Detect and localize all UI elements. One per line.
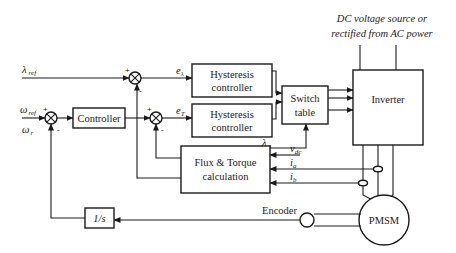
dtc-block-diagram: DC voltage source or rectified from AC p… bbox=[0, 0, 456, 253]
ib-label: ib bbox=[290, 171, 297, 184]
encoder-label: Encoder bbox=[262, 205, 297, 216]
dc-source-label-line2: rectified from AC power bbox=[331, 28, 433, 39]
flux-estimate-feedback-lower bbox=[137, 118, 181, 178]
sum-flux-plus: + bbox=[125, 66, 130, 75]
current-sensor-a bbox=[374, 166, 383, 172]
omega-r-label: ωr bbox=[22, 124, 33, 137]
sum-torque-plus: + bbox=[147, 105, 152, 114]
hyst2-to-switch bbox=[272, 102, 282, 119]
vdc-label: vdc bbox=[290, 143, 302, 156]
hysteresis-1-label-2: controller bbox=[212, 82, 253, 93]
flux-torque-calculation-block bbox=[181, 146, 270, 193]
sum-flux-minus: - bbox=[139, 86, 142, 95]
inverter-block bbox=[353, 70, 423, 145]
pmsm-label: PMSM bbox=[369, 215, 400, 226]
sum-torque-minus: - bbox=[161, 125, 164, 134]
inverter-label: Inverter bbox=[371, 94, 405, 105]
torque-estimate-feedback bbox=[156, 124, 181, 158]
speed-feedback bbox=[51, 124, 85, 218]
sum-speed-minus: - bbox=[57, 125, 60, 134]
hyst1-to-switch bbox=[272, 71, 282, 93]
switch-table-label-1: Switch bbox=[290, 93, 320, 104]
controller-label: Controller bbox=[77, 113, 121, 124]
hysteresis-2-label-2: controller bbox=[212, 122, 253, 133]
switch-table-block bbox=[282, 86, 328, 124]
current-sensor-b bbox=[359, 180, 368, 186]
hysteresis-2-label-1: Hysteresis bbox=[210, 109, 254, 120]
sum-speed-plus: + bbox=[43, 105, 48, 114]
phase-line-c bbox=[384, 145, 393, 203]
integrator-label: 1/s bbox=[93, 213, 105, 224]
ia-label: ia bbox=[290, 157, 297, 170]
flux-torque-label-1: Flux & Torque bbox=[194, 157, 256, 168]
omega-ref-label: ωref bbox=[20, 104, 37, 117]
e-lambda-label: eλ bbox=[176, 65, 184, 78]
phase-line-a bbox=[363, 145, 378, 203]
switch-table-label-2: table bbox=[295, 107, 316, 118]
lambda-ref-label: λref bbox=[21, 64, 37, 77]
e-t-label: eT bbox=[176, 105, 186, 118]
encoder-circle bbox=[300, 213, 314, 227]
dc-source-label-line1: DC voltage source or bbox=[336, 13, 428, 24]
flux-torque-label-2: calculation bbox=[202, 171, 249, 182]
hysteresis-1-label-1: Hysteresis bbox=[210, 69, 254, 80]
